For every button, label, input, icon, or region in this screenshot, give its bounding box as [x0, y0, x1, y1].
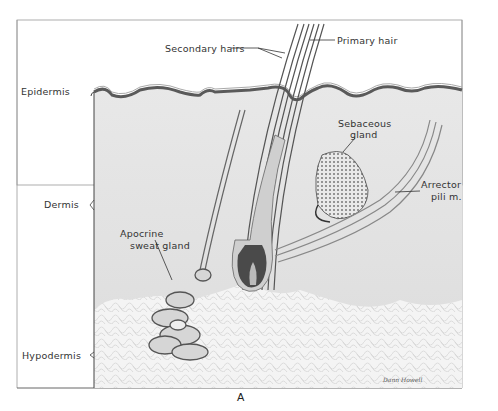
artist-signature: Dann Howell — [382, 376, 422, 383]
label-primary-hair: Primary hair — [337, 35, 398, 46]
label-secondary-hairs: Secondary hairs — [165, 43, 245, 54]
label-apocrine-line1: Apocrine — [120, 228, 164, 239]
label-epidermis: Epidermis — [21, 86, 70, 97]
label-hypodermis: Hypodermis — [22, 350, 81, 361]
label-arrector-line2: pili m. — [431, 191, 462, 202]
label-sebaceous-line2: gland — [350, 129, 378, 140]
label-dermis: Dermis — [44, 199, 79, 210]
figure-caption: A — [237, 391, 244, 403]
label-arrector-line1: Arrector — [421, 179, 461, 190]
label-sebaceous-line1: Sebaceous — [338, 118, 391, 129]
label-apocrine-line2: sweat gland — [130, 240, 190, 251]
